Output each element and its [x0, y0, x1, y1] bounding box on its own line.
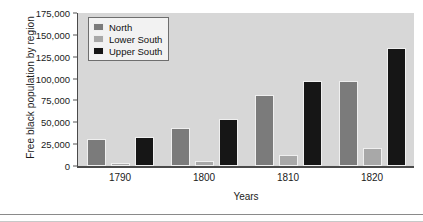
legend-swatch-icon — [93, 35, 104, 43]
bar-chart-figure: Free black population by region 025,0005… — [0, 0, 423, 222]
chart-legend: NorthLower SouthUpper South — [88, 17, 169, 61]
bar-group-1810 — [255, 13, 322, 166]
legend-item-lower-south: Lower South — [93, 33, 162, 45]
y-tick-mark — [73, 144, 77, 145]
legend-label: North — [109, 22, 132, 33]
bar-lower-south-1800 — [195, 161, 214, 166]
y-tick-label: 175,000 — [8, 8, 70, 19]
bar-group-1800 — [171, 13, 238, 166]
y-tick-mark — [73, 34, 77, 35]
legend-swatch-icon — [93, 47, 104, 55]
legend-label: Lower South — [109, 34, 162, 45]
bar-north-1810 — [255, 95, 274, 166]
figure-bottom-rule-secondary — [0, 221, 423, 222]
bar-group-1820 — [339, 13, 406, 166]
bar-upper-south-1790 — [135, 137, 154, 166]
y-tick-mark — [73, 100, 77, 101]
bar-north-1790 — [87, 139, 106, 166]
y-tick-mark — [73, 56, 77, 57]
y-tick-label: 0 — [8, 161, 70, 172]
legend-swatch-icon — [93, 23, 104, 31]
y-tick-label: 50,000 — [8, 117, 70, 128]
legend-label: Upper South — [109, 46, 162, 57]
x-tick-label-1810: 1810 — [258, 172, 318, 183]
bar-upper-south-1820 — [387, 48, 406, 166]
bar-north-1800 — [171, 128, 190, 166]
y-tick-label: 75,000 — [8, 95, 70, 106]
x-axis-title: Years — [78, 191, 414, 202]
bar-upper-south-1810 — [303, 81, 322, 166]
bar-lower-south-1790 — [111, 163, 130, 166]
bar-lower-south-1820 — [363, 148, 382, 166]
legend-item-north: North — [93, 21, 162, 33]
y-tick-mark — [73, 122, 77, 123]
y-tick-label: 125,000 — [8, 51, 70, 62]
x-tick-label-1800: 1800 — [174, 172, 234, 183]
y-tick-label: 150,000 — [8, 29, 70, 40]
figure-bottom-rule — [0, 214, 423, 215]
y-tick-mark — [73, 166, 77, 167]
bar-lower-south-1810 — [279, 155, 298, 166]
x-tick-label-1820: 1820 — [342, 172, 402, 183]
bar-north-1820 — [339, 81, 358, 166]
y-axis-tick-labels: 025,00050,00075,000100,000125,000150,000… — [8, 0, 70, 180]
y-tick-mark — [73, 78, 77, 79]
x-axis-line — [77, 166, 414, 168]
legend-item-upper-south: Upper South — [93, 45, 162, 57]
y-tick-label: 100,000 — [8, 73, 70, 84]
y-tick-label: 25,000 — [8, 139, 70, 150]
x-tick-label-1790: 1790 — [90, 172, 150, 183]
bar-upper-south-1800 — [219, 119, 238, 166]
y-tick-mark — [73, 13, 77, 14]
